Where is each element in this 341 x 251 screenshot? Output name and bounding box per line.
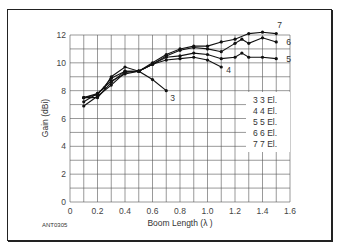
x-tick-label: 0: [68, 206, 73, 216]
data-point-4: [220, 65, 223, 68]
y-tick-label: 0: [61, 197, 66, 207]
y-axis-label: Gain (dBi): [40, 99, 50, 137]
data-point-7: [220, 40, 223, 43]
data-point-7: [110, 77, 113, 80]
data-point-4: [165, 58, 168, 61]
data-point-7: [151, 61, 154, 64]
legend-entry: 4 4 El.: [253, 106, 277, 116]
data-point-7: [137, 70, 140, 73]
data-point-4: [178, 57, 181, 60]
x-tick-label: 1.0: [202, 206, 214, 216]
y-tick-label: 8: [61, 86, 66, 96]
data-point-3: [151, 78, 154, 81]
data-point-5: [261, 56, 264, 59]
legend-entry: 5 5 El.: [253, 117, 277, 127]
figure-id-label: ANT0305: [42, 222, 68, 228]
data-point-5: [240, 51, 243, 54]
data-point-6: [220, 50, 223, 53]
legend-entry: 6 6 El.: [253, 128, 277, 138]
data-point-7: [82, 96, 85, 99]
data-point-5: [275, 57, 278, 60]
data-point-7: [247, 32, 250, 35]
data-point-5: [178, 54, 181, 57]
data-point-6: [96, 96, 99, 99]
y-tick-label: 2: [61, 169, 66, 179]
gain-vs-boom-length-chart: 00.20.40.60.81.01.21.41.6024681012Boom L…: [0, 0, 341, 251]
legend-entry: 3 3 El.: [253, 95, 277, 105]
data-point-7: [96, 93, 99, 96]
x-axis-label: Boom Length (λ ): [147, 218, 212, 228]
data-point-6: [240, 38, 243, 41]
x-tick-label: 1.4: [257, 206, 269, 216]
data-point-7: [261, 31, 264, 34]
data-point-6: [261, 36, 264, 39]
data-point-5: [82, 104, 85, 107]
data-point-5: [247, 56, 250, 59]
x-tick-label: 1.2: [229, 206, 241, 216]
data-point-7: [206, 45, 209, 48]
x-tick-label: 0.4: [119, 206, 131, 216]
data-point-6: [233, 42, 236, 45]
data-point-5: [220, 57, 223, 60]
data-point-5: [206, 53, 209, 56]
series-end-label-7: 7: [277, 20, 282, 30]
series-end-label-3: 3: [170, 93, 175, 103]
series-end-label-6: 6: [286, 37, 291, 47]
data-point-7: [275, 32, 278, 35]
data-point-7: [233, 38, 236, 41]
data-point-7: [123, 70, 126, 73]
y-tick-label: 4: [61, 141, 66, 151]
x-tick-label: 1.6: [284, 206, 296, 216]
data-point-6: [247, 42, 250, 45]
data-point-4: [123, 65, 126, 68]
x-tick-label: 0.6: [147, 206, 159, 216]
data-point-7: [192, 45, 195, 48]
y-tick-label: 6: [61, 114, 66, 124]
data-point-3: [165, 89, 168, 92]
data-point-7: [178, 47, 181, 50]
series-end-label-5: 5: [286, 54, 291, 64]
data-point-5: [192, 51, 195, 54]
x-tick-label: 0.8: [174, 206, 186, 216]
data-point-5: [233, 56, 236, 59]
y-tick-label: 12: [57, 30, 67, 40]
data-point-6: [110, 81, 113, 84]
series-end-label-4: 4: [226, 65, 231, 75]
data-point-4: [192, 56, 195, 59]
data-point-6: [275, 40, 278, 43]
x-tick-label: 0.2: [92, 206, 104, 216]
data-point-4: [206, 58, 209, 61]
data-point-7: [165, 53, 168, 56]
data-point-6: [206, 47, 209, 50]
data-point-4: [82, 100, 85, 103]
y-tick-label: 10: [57, 58, 67, 68]
legend-entry: 7 7 El.: [253, 139, 277, 149]
